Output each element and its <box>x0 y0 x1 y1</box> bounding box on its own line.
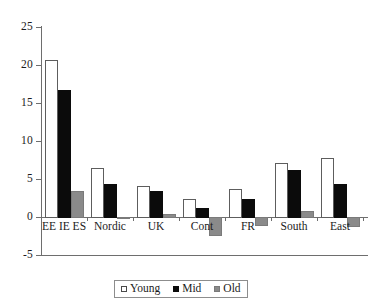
bar-group <box>133 26 179 218</box>
y-axis-tick-label: 15 <box>0 97 33 109</box>
bar-young <box>321 158 334 218</box>
chart-legend: Young Mid Old <box>114 280 248 298</box>
y-axis-tick-label: 20 <box>0 59 33 71</box>
legend-label: Old <box>223 283 240 295</box>
bar-mid <box>58 90 71 218</box>
bar-mid <box>334 184 347 218</box>
legend-label: Mid <box>182 283 201 295</box>
bar-mid <box>288 170 301 218</box>
x-axis-group-label: South <box>271 220 317 233</box>
bar-old <box>163 214 176 218</box>
x-axis-group-label: EE IE ES <box>41 220 87 233</box>
bar-young <box>137 186 150 218</box>
bar-young <box>275 163 288 218</box>
bar-group <box>179 26 225 218</box>
bar-mid <box>196 208 209 218</box>
y-axis-tick-label: -5 <box>0 249 33 261</box>
x-axis-group-label: Nordic <box>87 220 133 233</box>
bar-chart-figure: 25 20 15 10 5 0 -5 <box>0 0 369 305</box>
bar-mid <box>242 199 255 218</box>
bar-group <box>271 26 317 218</box>
bar-young <box>183 199 196 218</box>
bar-old <box>71 191 84 218</box>
x-axis-group-label: UK <box>133 220 179 233</box>
bar-old <box>301 211 314 218</box>
bar-young <box>229 189 242 218</box>
y-axis-tick-label: 5 <box>0 173 33 185</box>
legend-label: Young <box>130 283 160 295</box>
bar-group <box>317 26 363 218</box>
x-axis-tick <box>363 217 364 221</box>
bar-mid <box>150 191 163 218</box>
bar-mid <box>104 184 117 218</box>
bar-young <box>91 168 104 218</box>
y-axis-tick-label: 25 <box>0 21 33 33</box>
y-axis-tick-label: 0 <box>0 211 33 223</box>
y-axis-tick-label: 10 <box>0 135 33 147</box>
legend-swatch-icon <box>214 286 220 292</box>
x-axis-group-label: Cont <box>179 220 225 233</box>
legend-entry-mid: Mid <box>173 283 201 295</box>
bar-group <box>87 26 133 218</box>
bar-group <box>225 26 271 218</box>
bar-young <box>45 60 58 218</box>
legend-swatch-icon <box>121 286 127 292</box>
x-axis-group-label: FR <box>225 220 271 233</box>
legend-swatch-icon <box>173 286 179 292</box>
legend-entry-old: Old <box>214 283 240 295</box>
bar-group <box>41 26 87 218</box>
plot-bottom-frame <box>41 255 368 256</box>
x-axis-group-label: East <box>317 220 363 233</box>
legend-entry-young: Young <box>121 283 160 295</box>
bar-old <box>117 217 130 219</box>
